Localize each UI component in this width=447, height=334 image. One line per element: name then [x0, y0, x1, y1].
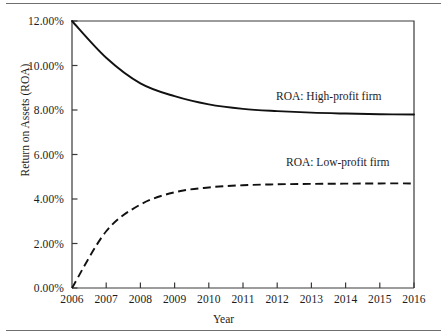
x-tick-label: 2008 — [129, 293, 152, 305]
x-tick-label: 2009 — [163, 293, 186, 305]
x-tick-label: 2011 — [232, 293, 255, 305]
x-tick-label: 2012 — [265, 293, 288, 305]
y-tick-label: 6.00% — [0, 149, 64, 161]
x-tick-label: 2010 — [197, 293, 220, 305]
x-axis-title: Year — [0, 313, 447, 325]
y-tick-label: 12.00% — [0, 15, 64, 27]
series-label-high-profit: ROA: High-profit firm — [276, 90, 381, 102]
x-tick-label: 2007 — [94, 293, 117, 305]
x-tick-label: 2016 — [402, 293, 425, 305]
x-tick-label: 2006 — [60, 293, 83, 305]
x-tick-label: 2014 — [334, 293, 357, 305]
series-line-low-profit — [72, 183, 414, 288]
y-tick-label: 0.00% — [0, 282, 64, 294]
x-tick-label: 2015 — [368, 293, 391, 305]
y-tick-label: 2.00% — [0, 238, 64, 250]
chart-figure: 0.00%2.00%4.00%6.00%8.00%10.00%12.00% 20… — [0, 0, 447, 334]
plot-frame — [72, 21, 414, 288]
y-tick-label: 4.00% — [0, 193, 64, 205]
x-tick-label: 2013 — [300, 293, 323, 305]
x-tick-marks — [106, 283, 414, 289]
y-tick-label: 8.00% — [0, 104, 64, 116]
y-tick-marks — [72, 21, 78, 288]
y-tick-label: 10.00% — [0, 60, 64, 72]
y-axis-title: Return on Assets (ROA) — [19, 20, 31, 220]
series-label-low-profit: ROA: Low-profit firm — [286, 156, 389, 168]
